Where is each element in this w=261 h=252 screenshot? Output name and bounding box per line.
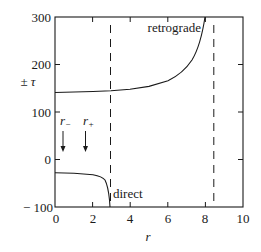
x-tick-6: 6 bbox=[165, 211, 172, 226]
retrograde-label: retrograde bbox=[148, 20, 202, 35]
r-minus-marker: r− bbox=[60, 113, 71, 152]
x-tick-4: 4 bbox=[127, 211, 134, 226]
x-axis-label: r bbox=[145, 229, 151, 244]
x-tick-2: 2 bbox=[90, 211, 97, 226]
svg-text:r+: r+ bbox=[83, 113, 94, 129]
x-tick-8: 8 bbox=[202, 211, 209, 226]
y-ticks bbox=[55, 65, 243, 160]
direct-curve bbox=[55, 173, 110, 207]
x-tick-0: 0 bbox=[53, 211, 60, 226]
svg-text:r−: r− bbox=[60, 113, 71, 129]
chart: 300 200 100 0 − 100 0 2 4 6 8 10 ± τ r r… bbox=[0, 0, 261, 252]
y-tick-300: 300 bbox=[32, 10, 52, 25]
x-ticks bbox=[93, 17, 206, 207]
x-tick-10: 10 bbox=[237, 211, 250, 226]
y-tick-minus-100: − 100 bbox=[23, 200, 53, 215]
y-axis-label: ± τ bbox=[20, 74, 36, 89]
y-tick-0: 0 bbox=[45, 152, 52, 167]
arrow-down-icon bbox=[83, 146, 88, 152]
y-tick-200: 200 bbox=[32, 57, 52, 72]
y-tick-100: 100 bbox=[32, 105, 52, 120]
plot-frame bbox=[55, 17, 243, 207]
r-plus-marker: r+ bbox=[83, 113, 94, 152]
arrow-down-icon bbox=[61, 146, 66, 152]
direct-label: direct bbox=[113, 186, 143, 201]
